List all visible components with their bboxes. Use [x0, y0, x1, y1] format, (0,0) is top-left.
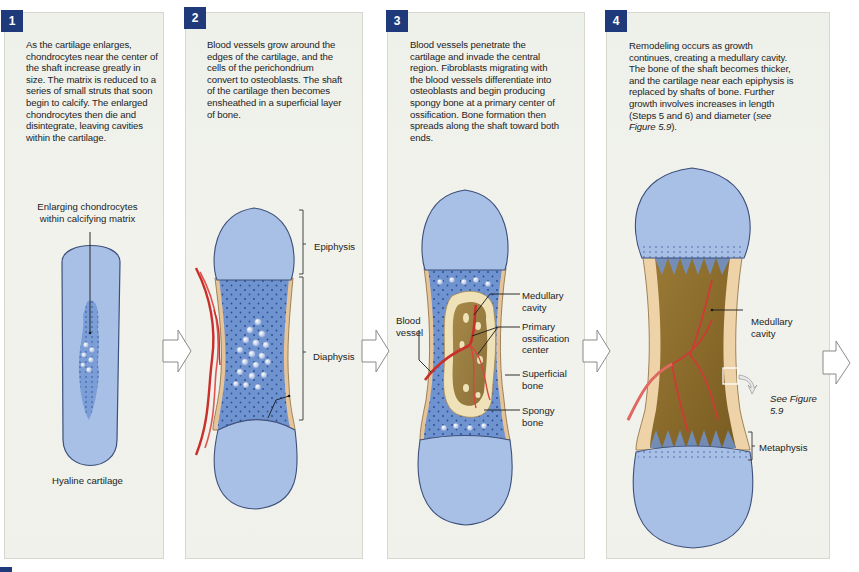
next-arrow-1: [163, 330, 191, 372]
step-3-bone: [418, 190, 520, 525]
figure-footer-marker: [0, 567, 12, 572]
next-arrow-4: [823, 341, 850, 384]
step-4-bone: [628, 168, 757, 548]
step-1-cartilage: [62, 232, 120, 466]
next-arrow-2: [362, 330, 389, 372]
step-2-bone: [196, 208, 306, 509]
next-arrow-3: [583, 330, 610, 372]
ossification-illustration: [0, 0, 859, 572]
